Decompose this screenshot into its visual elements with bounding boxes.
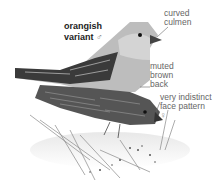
bird-illustration: orangish variant ♂ curved culmen muted b… bbox=[0, 0, 214, 190]
variant-label-line1: orangish bbox=[64, 21, 103, 32]
face-pattern-label: very indistinct face pattern ♀ bbox=[160, 93, 212, 120]
curved-culmen-line2: culmen bbox=[164, 18, 191, 27]
variant-label-line2: variant bbox=[64, 32, 94, 42]
male-symbol-icon: ♂ bbox=[96, 32, 103, 42]
face-pattern-line2: face pattern bbox=[160, 102, 212, 111]
variant-label: orangish variant ♂ bbox=[64, 21, 103, 43]
muted-line3: back bbox=[150, 80, 174, 89]
muted-brown-back-label: muted brown back bbox=[150, 62, 174, 89]
curved-culmen-label: curved culmen bbox=[164, 9, 191, 27]
female-symbol-icon: ♀ bbox=[160, 111, 212, 120]
ground-shadow bbox=[30, 132, 190, 168]
